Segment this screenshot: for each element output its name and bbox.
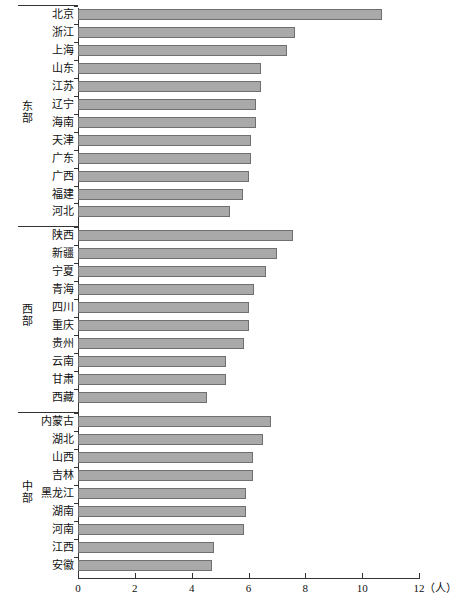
bar [78,99,256,110]
category-label: 福建 [0,189,74,200]
bar [78,135,251,146]
category-label: 四川 [0,302,74,313]
x-tick-label: 12 [414,582,425,594]
y-tick [74,371,78,372]
category-label: 云南 [0,356,74,367]
bar [78,302,249,313]
bar [78,9,382,20]
bar [78,266,266,277]
bar [78,248,277,259]
bar [78,153,251,164]
x-tick [305,573,306,578]
bar [78,206,230,217]
category-label: 广东 [0,153,74,164]
category-label: 江西 [0,542,74,553]
category-label: 山东 [0,63,74,74]
category-label: 北京 [0,9,74,20]
category-label: 贵州 [0,338,74,349]
y-tick [74,353,78,354]
y-tick [74,485,78,486]
y-tick [74,227,78,228]
bar [78,117,256,128]
y-tick [74,245,78,246]
bar [78,416,271,427]
y-tick [74,60,78,61]
category-label: 黑龙江 [0,488,74,499]
category-label: 浙江 [0,27,74,38]
bar [78,171,249,182]
category-label: 辽宁 [0,99,74,110]
category-label: 西藏 [0,392,74,403]
category-label: 广西 [0,171,74,182]
y-tick [74,467,78,468]
y-tick [74,449,78,450]
y-tick [74,42,78,43]
y-tick [74,431,78,432]
group-separator [18,5,78,6]
category-label: 青海 [0,284,74,295]
x-tick-label: 6 [246,582,252,594]
category-label: 安徽 [0,560,74,571]
category-label: 吉林 [0,470,74,481]
x-tick-label: 10 [357,582,368,594]
x-tick [419,573,420,578]
y-tick [74,132,78,133]
bar [78,27,295,38]
bar [78,452,253,463]
category-label: 山西 [0,452,74,463]
category-label: 甘肃 [0,374,74,385]
y-tick [74,78,78,79]
bar [78,374,226,385]
bar [78,470,253,481]
x-tick [192,573,193,578]
y-tick [74,6,78,7]
category-label: 宁夏 [0,266,74,277]
category-label: 湖南 [0,506,74,517]
y-tick [74,203,78,204]
y-tick [74,389,78,390]
y-tick [74,114,78,115]
bar [78,230,293,241]
category-label: 陕西 [0,230,74,241]
x-tick [78,573,79,578]
x-tick [249,573,250,578]
x-tick-label: 4 [189,582,195,594]
y-tick [74,557,78,558]
y-tick [74,186,78,187]
bar [78,506,246,517]
bar [78,392,207,403]
bar [78,63,261,74]
y-tick [74,150,78,151]
group-label-2: 中部 [17,480,33,504]
category-label: 江苏 [0,81,74,92]
category-label: 湖北 [0,434,74,445]
x-tick-label: 8 [303,582,309,594]
group-label-0: 东部 [17,100,33,124]
category-label: 河南 [0,524,74,535]
bar-chart: 北京浙江上海山东江苏辽宁海南天津广东广西福建河北陕西新疆宁夏青海四川重庆贵州云南… [0,0,461,616]
x-axis-unit-label: （人） [424,582,457,594]
y-tick [74,168,78,169]
y-tick [74,281,78,282]
x-tick [135,573,136,578]
x-tick-label: 2 [132,582,138,594]
bar [78,524,244,535]
y-tick [74,539,78,540]
bar [78,542,214,553]
bar [78,189,243,200]
category-label: 天津 [0,135,74,146]
bar [78,320,249,331]
x-axis-line [78,578,420,579]
x-tick [362,573,363,578]
y-tick [74,521,78,522]
y-tick [74,413,78,414]
category-label: 海南 [0,117,74,128]
y-tick [74,24,78,25]
bar [78,560,212,571]
bar [78,434,263,445]
category-label: 上海 [0,45,74,56]
y-tick [74,317,78,318]
group-label-1: 西部 [17,303,33,327]
bar [78,338,244,349]
category-label: 新疆 [0,248,74,259]
